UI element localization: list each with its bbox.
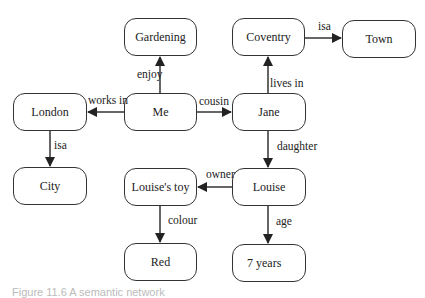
node-label: Louise <box>253 180 286 195</box>
node-louises-toy: Louise's toy <box>124 168 197 206</box>
node-label: Coventry <box>246 30 291 45</box>
figure-caption: Figure 11.6 A semantic network <box>12 286 165 298</box>
node-label: 7 years <box>247 256 281 271</box>
node-label: City <box>40 179 61 194</box>
node-7-years: 7 years <box>232 244 306 282</box>
node-label: Jane <box>258 105 279 120</box>
edge-label-isa-town: isa <box>318 20 331 32</box>
node-label: Town <box>365 32 392 47</box>
edge-label-works-in: works in <box>88 94 128 106</box>
node-label: London <box>31 105 68 120</box>
node-label: Me <box>153 105 169 120</box>
node-coventry: Coventry <box>232 18 305 56</box>
node-label: Louise's toy <box>132 180 190 195</box>
edge-label-lives-in: lives in <box>270 77 304 89</box>
node-town: Town <box>342 20 416 58</box>
edge-label-enjoy: enjoy <box>137 68 163 80</box>
edge-label-isa-city: isa <box>54 139 67 151</box>
node-me: Me <box>124 93 197 131</box>
node-london: London <box>13 93 87 131</box>
node-city: City <box>13 167 87 205</box>
edge-label-cousin: cousin <box>199 95 229 107</box>
edge-label-colour: colour <box>168 214 197 226</box>
edge-label-owner: owner <box>206 168 235 180</box>
node-louise: Louise <box>232 168 306 206</box>
node-jane: Jane <box>232 93 306 131</box>
edge-label-daughter: daughter <box>277 140 317 152</box>
node-label: Gardening <box>135 30 186 45</box>
edge-label-age: age <box>276 215 292 227</box>
node-gardening: Gardening <box>124 18 197 56</box>
node-red: Red <box>124 243 197 281</box>
node-label: Red <box>151 255 170 270</box>
